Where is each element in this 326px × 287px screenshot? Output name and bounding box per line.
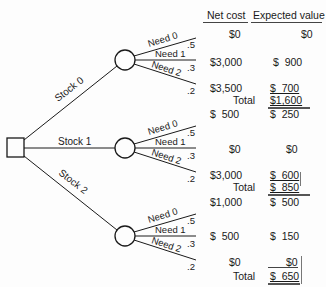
- column-header-expected-value: Expected value: [253, 9, 325, 21]
- branch-label-stock-2: Stock 2: [57, 167, 90, 196]
- probability-label: .3: [187, 238, 195, 249]
- expected-value-cell: $ 600: [270, 169, 299, 181]
- expected-value-cell: $0: [286, 143, 298, 155]
- net-cost-cell: $ 500: [210, 230, 239, 242]
- expected-value-cell: $ 900: [273, 56, 302, 68]
- margin-mark: [301, 256, 302, 284]
- total-label: Total: [233, 94, 255, 106]
- total-value: $ 650: [270, 270, 299, 282]
- probability-label: .2: [187, 261, 195, 272]
- double-underline: [268, 283, 300, 285]
- net-cost-cell: $3,000: [210, 169, 242, 181]
- single-underline: [268, 267, 298, 268]
- net-cost-cell: $0: [229, 143, 241, 155]
- outcome-label: Need 2: [150, 146, 183, 166]
- outcome-label: Need 0: [146, 205, 179, 224]
- column-header-net-cost: Net cost: [207, 9, 246, 21]
- total-value: $ 850: [270, 181, 299, 193]
- branch-label-stock-1: Stock 1: [58, 136, 92, 147]
- net-cost-cell: $0: [229, 256, 241, 268]
- outcome-label: Need 1: [155, 48, 186, 59]
- net-cost-cell: $3,000: [210, 56, 242, 68]
- total-label: Total: [233, 270, 255, 282]
- header-underline: [203, 22, 248, 23]
- total-label: Total: [233, 181, 255, 193]
- expected-value-cell: $ 700: [270, 82, 299, 94]
- probability-label: .5: [187, 127, 195, 138]
- outcome-label: Need 0: [146, 29, 179, 48]
- net-cost-cell: $0: [229, 28, 241, 40]
- probability-label: .2: [187, 173, 195, 184]
- branch-line-stock-2: [24, 156, 117, 230]
- expected-value-cell: $ 250: [270, 108, 299, 120]
- chance-node-circle-icon: [115, 226, 135, 246]
- expected-value-cell: $ 500: [270, 196, 299, 208]
- header-underline: [251, 22, 322, 23]
- outcome-label: Need 0: [146, 117, 179, 136]
- decision-node-square-icon: [7, 138, 24, 157]
- outcome-label: Need 1: [155, 136, 186, 147]
- probability-label: .3: [187, 62, 195, 73]
- probability-label: .5: [187, 39, 195, 50]
- chance-node-circle-icon: [115, 50, 135, 70]
- branch-line-stock-0: [24, 66, 117, 140]
- tree-graphic: Stock 0 Stock 1 Stock 2 Need 0 Need 1 Ne…: [0, 0, 326, 287]
- decision-tree-figure: Stock 0 Stock 1 Stock 2 Need 0 Need 1 Ne…: [0, 0, 326, 287]
- expected-value-cell: $0: [301, 28, 313, 40]
- net-cost-cell: $3,500: [210, 82, 242, 94]
- chance-node-circle-icon: [115, 138, 135, 158]
- probability-label: .5: [187, 215, 195, 226]
- outcome-label: Need 1: [155, 224, 186, 235]
- probability-label: .2: [187, 85, 195, 96]
- total-value: $1,600: [270, 94, 302, 106]
- outcome-label: Need 2: [150, 234, 183, 254]
- margin-mark: [300, 172, 301, 186]
- probability-label: .3: [187, 150, 195, 161]
- net-cost-cell: $ 500: [210, 108, 239, 120]
- branch-label-stock-0: Stock 0: [52, 74, 85, 103]
- outcome-label: Need 2: [150, 58, 183, 78]
- net-cost-cell: $1,000: [210, 196, 242, 208]
- expected-value-cell: $ 150: [270, 230, 299, 242]
